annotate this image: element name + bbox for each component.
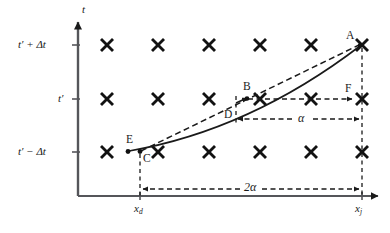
cross-marker <box>152 39 164 51</box>
point-label-b: B <box>243 81 251 93</box>
cross-marker <box>254 146 266 158</box>
axis-tick-label-t-minus-dt: t′ − Δt <box>18 146 46 157</box>
point-label-c: C <box>143 153 151 165</box>
cross-marker <box>203 39 215 51</box>
point-label-e: E <box>126 134 133 146</box>
cross-marker <box>152 146 164 158</box>
spacetime-grid-figure: t t′ + Δt t′ t′ − Δt xd xj A B C D E F α… <box>0 0 390 233</box>
axis-tick-label-xd: xd <box>134 203 143 216</box>
cross-marker <box>254 39 266 51</box>
trajectory-dashed-chord <box>141 45 359 151</box>
point-dot-b <box>245 96 250 101</box>
figure-canvas <box>0 0 390 233</box>
point-label-a: A <box>346 30 354 42</box>
cross-marker <box>152 93 164 105</box>
cross-marker <box>305 146 317 158</box>
point-dot-e <box>126 149 131 154</box>
cross-marker <box>101 39 113 51</box>
point-label-d: D <box>224 109 232 121</box>
dimension-label-alpha: α <box>298 112 304 124</box>
axis-tick-label-t-plus-dt: t′ + Δt <box>18 39 46 50</box>
cross-marker <box>203 93 215 105</box>
axis-tick-label-xj: xj <box>355 203 362 216</box>
point-label-f: F <box>345 83 351 95</box>
axis-label-t: t <box>82 4 85 15</box>
point-dot-c <box>138 149 143 154</box>
cross-marker <box>101 93 113 105</box>
cross-marker <box>101 146 113 158</box>
axis-tick-label-t-prime: t′ <box>58 93 63 104</box>
cross-marker <box>203 146 215 158</box>
dimension-label-two-alpha: 2α <box>244 181 256 193</box>
point-dot-a <box>358 43 363 48</box>
cross-marker <box>305 39 317 51</box>
